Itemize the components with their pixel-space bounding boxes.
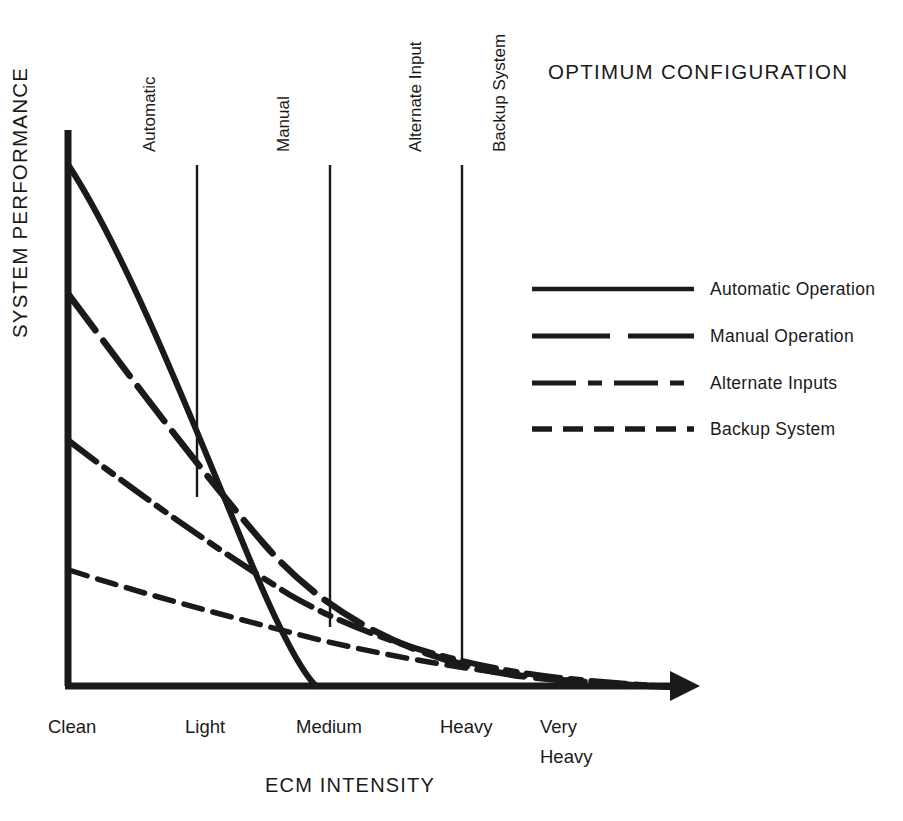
x-tick-text-line2: Heavy xyxy=(540,746,592,768)
legend-label-automatic-operation: Automatic Operation xyxy=(710,279,875,300)
y-axis-label: SYSTEM PERFORMANCE xyxy=(8,18,32,338)
x-tick-text: Light xyxy=(185,716,225,737)
divider-label-backup-system: Backup System xyxy=(490,34,510,152)
x-tick-text: Medium xyxy=(296,716,362,737)
legend-label-manual-operation: Manual Operation xyxy=(710,326,854,347)
x-tick-text: Very xyxy=(540,716,577,737)
curve-manual-operation xyxy=(69,295,676,687)
x-tick-label-very-heavy: Very Heavy xyxy=(540,716,592,768)
divider-label-alternate-input: Alternate Input xyxy=(406,41,426,152)
x-tick-label-clean: Clean xyxy=(48,716,96,738)
x-tick-text: Clean xyxy=(48,716,96,737)
chart-figure: OPTIMUM CONFIGURATION SYSTEM PERFORMANCE… xyxy=(0,0,903,821)
divider-label-automatic: Automatic xyxy=(140,76,160,152)
x-tick-text: Heavy xyxy=(440,716,492,737)
divider-label-manual: Manual xyxy=(274,96,294,152)
x-tick-label-medium: Medium xyxy=(296,716,362,738)
legend-label-backup-system: Backup System xyxy=(710,419,835,440)
x-tick-label-light: Light xyxy=(185,716,225,738)
chart-plot-area xyxy=(0,0,903,821)
legend-label-alternate-inputs: Alternate Inputs xyxy=(710,373,837,394)
chart-title: OPTIMUM CONFIGURATION xyxy=(548,60,848,84)
legend-line-samples xyxy=(532,289,694,429)
region-divider-lines xyxy=(197,165,462,661)
x-tick-label-heavy: Heavy xyxy=(440,716,492,738)
x-axis-label: ECM INTENSITY xyxy=(0,774,700,797)
data-curves xyxy=(69,166,676,687)
